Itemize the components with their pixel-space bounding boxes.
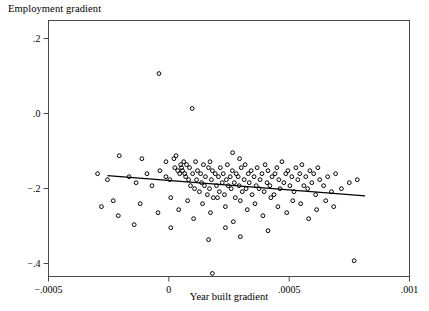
- data-point: [202, 163, 206, 167]
- data-point: [326, 175, 330, 179]
- data-point: [302, 184, 306, 188]
- data-point: [240, 190, 244, 194]
- data-point: [132, 223, 136, 227]
- data-point: [238, 235, 242, 239]
- data-point: [244, 187, 248, 191]
- data-point: [169, 226, 173, 230]
- data-point: [223, 193, 227, 197]
- data-point: [201, 202, 205, 206]
- data-point: [282, 181, 286, 185]
- data-point: [169, 196, 173, 200]
- data-point: [252, 175, 256, 179]
- data-point: [207, 238, 211, 242]
- data-point: [306, 187, 310, 191]
- data-point: [242, 178, 246, 182]
- y-tick-label: .0: [33, 108, 41, 119]
- data-point: [288, 184, 292, 188]
- data-point: [300, 163, 304, 167]
- data-point: [280, 160, 284, 164]
- data-point: [192, 217, 196, 221]
- data-point: [304, 175, 308, 179]
- data-point: [322, 184, 326, 188]
- data-point: [334, 172, 338, 176]
- data-point: [236, 175, 240, 179]
- data-point: [100, 205, 104, 209]
- data-point: [164, 160, 168, 164]
- y-tick-label: .2: [33, 33, 41, 44]
- data-point: [310, 181, 314, 185]
- data-point: [262, 190, 266, 194]
- data-point: [308, 169, 312, 173]
- data-point: [261, 214, 265, 218]
- data-point: [134, 181, 138, 185]
- data-point: [269, 196, 273, 200]
- data-point: [291, 199, 295, 203]
- data-point: [174, 154, 178, 158]
- data-point: [195, 178, 199, 182]
- data-point: [217, 175, 221, 179]
- data-point: [189, 184, 193, 188]
- data-point: [198, 190, 202, 194]
- data-point: [231, 151, 235, 155]
- data-point: [314, 193, 318, 197]
- data-point: [247, 181, 251, 185]
- data-point: [211, 196, 215, 200]
- data-point: [324, 199, 328, 203]
- data-point: [275, 166, 279, 170]
- data-point: [191, 172, 195, 176]
- data-point: [208, 160, 212, 164]
- data-point: [245, 208, 249, 212]
- x-tick-label: −.0005: [34, 284, 62, 295]
- data-point: [193, 187, 197, 191]
- data-point: [218, 166, 222, 170]
- data-point: [230, 169, 234, 173]
- data-point: [312, 172, 316, 176]
- data-point: [140, 157, 144, 161]
- data-point: [187, 178, 191, 182]
- data-point: [250, 193, 254, 197]
- data-point: [296, 178, 300, 182]
- plot-frame: [49, 21, 410, 277]
- data-point: [232, 181, 236, 185]
- y-axis-ticks: .2.0−.2−.4: [27, 33, 48, 269]
- data-point: [106, 178, 110, 182]
- data-point: [194, 160, 198, 164]
- data-point-group: [96, 72, 359, 276]
- data-point: [238, 157, 242, 161]
- data-point: [315, 208, 319, 212]
- x-tick-label: 0: [166, 284, 171, 295]
- x-tick-label: .001: [401, 284, 419, 295]
- data-point: [263, 163, 267, 167]
- data-point: [286, 169, 290, 173]
- scatter-plot: .2.0−.2−.4 −.00050.0005.001 Year built g…: [0, 0, 429, 311]
- y-tick-label: −.2: [27, 183, 40, 194]
- data-point: [294, 166, 298, 170]
- data-point: [249, 169, 253, 173]
- data-point: [210, 178, 214, 182]
- data-point: [199, 172, 203, 176]
- data-point: [203, 184, 207, 188]
- data-point: [216, 196, 220, 200]
- data-point: [332, 205, 336, 209]
- data-point: [290, 175, 294, 179]
- data-point: [221, 172, 225, 176]
- data-point: [239, 166, 243, 170]
- data-point: [223, 226, 227, 230]
- data-point: [318, 178, 322, 182]
- data-point: [196, 169, 200, 173]
- x-tick-label: .0005: [278, 284, 301, 295]
- data-point: [272, 193, 276, 197]
- plot-border: [49, 21, 410, 277]
- data-point: [190, 107, 194, 111]
- data-point: [266, 169, 270, 173]
- data-point: [145, 172, 149, 176]
- data-point: [138, 202, 142, 206]
- data-point: [223, 205, 227, 209]
- data-point: [157, 72, 161, 76]
- data-point: [339, 187, 343, 191]
- data-point: [116, 214, 120, 218]
- data-point: [188, 166, 192, 170]
- data-point: [229, 187, 233, 191]
- y-tick-label: −.4: [27, 258, 40, 269]
- data-point: [233, 196, 237, 200]
